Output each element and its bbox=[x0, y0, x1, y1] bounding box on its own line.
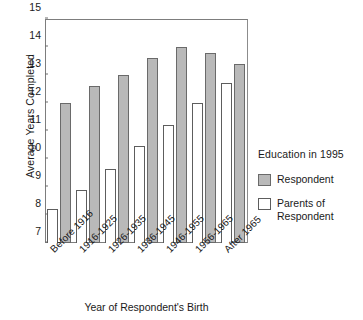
legend-label-parents: Parents of Respondent bbox=[277, 197, 334, 223]
bar-respondent bbox=[205, 53, 217, 243]
legend-entry-respondent: Respondent bbox=[258, 173, 363, 186]
y-tick-label: 13 bbox=[29, 57, 45, 69]
y-tick-label: 9 bbox=[35, 169, 45, 181]
y-tick-mark bbox=[45, 18, 48, 19]
y-tick-label: 7 bbox=[35, 225, 45, 237]
legend-label-parents-line1: Parents of bbox=[277, 197, 325, 209]
y-tick-label: 12 bbox=[29, 85, 45, 97]
bar-chart: Average Years Completed 789101112131415 … bbox=[0, 0, 363, 320]
y-tick-label: 14 bbox=[29, 29, 45, 41]
y-tick-label: 10 bbox=[29, 141, 45, 153]
bar-respondent bbox=[147, 58, 159, 243]
legend-label-parents-line2: Respondent bbox=[277, 210, 334, 222]
legend-title: Education in 1995 bbox=[258, 148, 363, 160]
bar-respondent bbox=[118, 75, 130, 243]
bar-respondent bbox=[234, 64, 246, 243]
legend-swatch-parents-icon bbox=[258, 198, 271, 210]
y-tick-mark bbox=[45, 186, 48, 187]
bar-respondent bbox=[176, 47, 188, 243]
legend: Education in 1995 Respondent Parents of … bbox=[258, 148, 363, 234]
y-tick-label: 15 bbox=[29, 1, 45, 13]
y-tick-label: 11 bbox=[30, 113, 45, 125]
legend-entry-parents: Parents of Respondent bbox=[258, 197, 363, 223]
y-tick-mark bbox=[45, 158, 48, 159]
plot-area: 789101112131415 bbox=[45, 19, 248, 243]
y-tick-mark bbox=[45, 102, 48, 103]
legend-swatch-respondent-icon bbox=[258, 174, 271, 186]
bar-respondent bbox=[60, 103, 72, 243]
x-axis-title: Year of Respondent's Birth bbox=[45, 301, 248, 313]
legend-label-respondent: Respondent bbox=[277, 173, 334, 186]
y-tick-mark bbox=[45, 130, 48, 131]
y-tick-label: 8 bbox=[35, 197, 45, 209]
y-tick-mark bbox=[45, 46, 48, 47]
y-tick-mark bbox=[45, 74, 48, 75]
